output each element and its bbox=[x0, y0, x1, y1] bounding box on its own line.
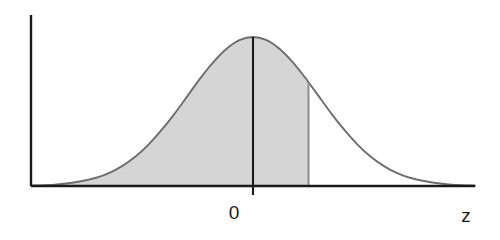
normal-distribution-figure: 0 z bbox=[0, 0, 500, 240]
shaded-area-region bbox=[31, 37, 309, 186]
x-axis-label: z bbox=[461, 205, 471, 226]
x-tick-label-zero: 0 bbox=[229, 202, 240, 223]
plot-canvas: 0 z bbox=[0, 0, 500, 240]
